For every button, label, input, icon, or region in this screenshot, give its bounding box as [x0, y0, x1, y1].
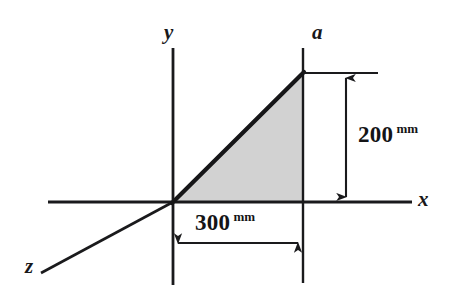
height-dimension-unit: mm	[396, 121, 418, 136]
diagram-canvas	[0, 0, 450, 296]
reference-line-a-label: a	[312, 22, 323, 43]
x-axis-label: x	[418, 189, 429, 210]
height-dimension-value: 200	[358, 122, 393, 147]
base-dimension-unit: mm	[233, 209, 255, 224]
y-axis-label: y	[164, 22, 173, 43]
height-dimension-label: 200mm	[358, 122, 418, 146]
base-dimension-label: 300mm	[195, 210, 255, 234]
z-axis-label: z	[25, 256, 33, 277]
figure-container: y a x z 200mm 300mm	[0, 0, 450, 296]
base-dimension-value: 300	[195, 210, 230, 235]
z-axis-line	[41, 202, 173, 273]
